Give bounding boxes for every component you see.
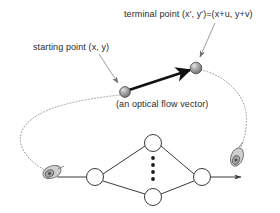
network-node-left <box>87 169 104 186</box>
right-camera-icon <box>228 142 246 168</box>
dotted-curve-group <box>20 70 246 170</box>
terminal-point-label: terminal point (x', y')=(x+u, y+v) <box>124 9 253 20</box>
edge-bottom-to-right <box>161 181 194 194</box>
network-ellipsis <box>151 156 155 181</box>
leader-line-group <box>99 23 215 83</box>
terminal-point-leader <box>200 23 215 57</box>
network-node-group <box>87 135 211 206</box>
left-camera-icon <box>41 163 64 181</box>
starting-point-leader <box>99 54 118 83</box>
flow-vector-shaft <box>126 70 190 91</box>
edge-left-to-top <box>103 146 145 174</box>
optical-flow-vector <box>126 70 190 91</box>
left-epipolar-curve <box>20 95 120 170</box>
right-epipolar-curve <box>201 70 246 153</box>
starting-point-sphere <box>120 87 131 98</box>
network-edge-group <box>103 146 194 194</box>
edge-left-to-bottom <box>103 181 145 194</box>
network-node-bottom <box>145 189 162 206</box>
edge-top-to-right <box>161 146 194 174</box>
terminal-point-sphere <box>190 62 202 74</box>
network-node-top <box>145 135 162 152</box>
starting-point-label: starting point (x, y) <box>33 42 109 53</box>
network-node-right <box>194 169 211 186</box>
flow-vector-caption: (an optical flow vector) <box>116 99 208 110</box>
optical-flow-diagram: terminal point (x', y')=(x+u, y+v) start… <box>0 0 280 213</box>
